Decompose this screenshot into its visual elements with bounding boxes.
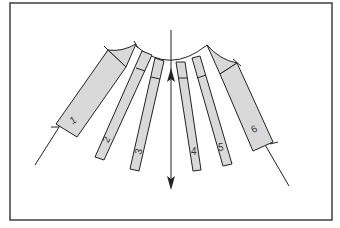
segment-5-label: 5	[218, 142, 224, 153]
segment-4-label: 4	[191, 146, 197, 157]
diagram-canvas: 1 2 3 4 5 6	[0, 0, 340, 228]
